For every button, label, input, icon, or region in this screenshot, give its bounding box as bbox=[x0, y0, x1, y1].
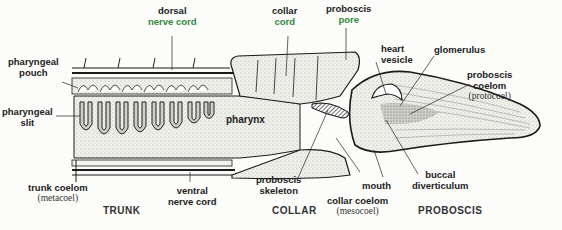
label-mouth: mouth bbox=[362, 180, 391, 191]
label-proboscis-pore: proboscis pore bbox=[326, 3, 371, 25]
label-collar-cord: collar cord bbox=[272, 5, 297, 27]
section-label-proboscis: PROBOSCIS bbox=[418, 205, 483, 216]
label-heart-vesicle: heart vesicle bbox=[381, 43, 413, 65]
label-collar-coelom: collar coelom (mesocoel) bbox=[327, 195, 388, 217]
label-glomerulus: glomerulus bbox=[434, 44, 485, 55]
label-pharyngeal-pouch: pharyngeal pouch bbox=[8, 56, 59, 78]
acorn-worm-diagram: dorsal nerve cord collar cord proboscis … bbox=[0, 0, 562, 230]
dorsal-marks bbox=[84, 58, 195, 68]
proboscis-skeleton bbox=[312, 103, 348, 118]
label-pharyngeal-slit: pharyngeal slit bbox=[2, 106, 53, 128]
label-trunk-coelom: trunk coelom (metacoel) bbox=[28, 182, 88, 204]
label-pharynx: pharynx bbox=[226, 114, 265, 125]
label-proboscis-coelom: proboscis coelom (protocoel) bbox=[467, 69, 512, 102]
label-ventral-nerve-cord: ventral nerve cord bbox=[168, 185, 217, 207]
label-proboscis-skeleton: proboscis skeleton bbox=[256, 174, 301, 196]
section-label-collar: COLLAR bbox=[272, 205, 317, 216]
section-label-trunk: TRUNK bbox=[103, 205, 141, 216]
label-dorsal-nerve-cord: dorsal nerve cord bbox=[148, 5, 197, 27]
label-buccal-diverticulum: buccal diverticulum bbox=[412, 169, 469, 191]
